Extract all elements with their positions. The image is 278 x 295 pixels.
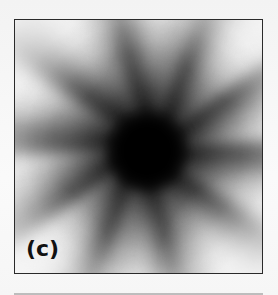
panel-label: (c) (26, 236, 59, 262)
figure-panel-c: (c) (14, 19, 263, 274)
